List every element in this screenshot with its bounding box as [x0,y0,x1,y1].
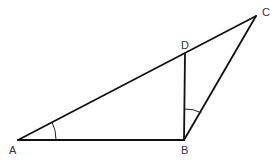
label-d: D [181,39,189,51]
label-b: B [181,144,188,156]
label-a: A [9,144,17,156]
label-c: C [262,6,270,18]
angle-mark-b [184,109,201,113]
triangle-diagram: A B C D [0,0,273,160]
segment-bd [184,54,185,140]
angle-mark-a [52,122,56,140]
